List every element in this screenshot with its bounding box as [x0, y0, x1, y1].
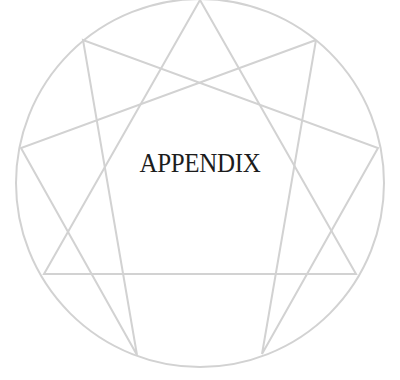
appendix-title: APPENDIX [0, 147, 400, 178]
enneagram-circle [16, 0, 384, 367]
enneagram-triangle [44, 0, 356, 274]
enneagram-hexad [21, 40, 378, 355]
enneagram-figure [0, 0, 400, 380]
